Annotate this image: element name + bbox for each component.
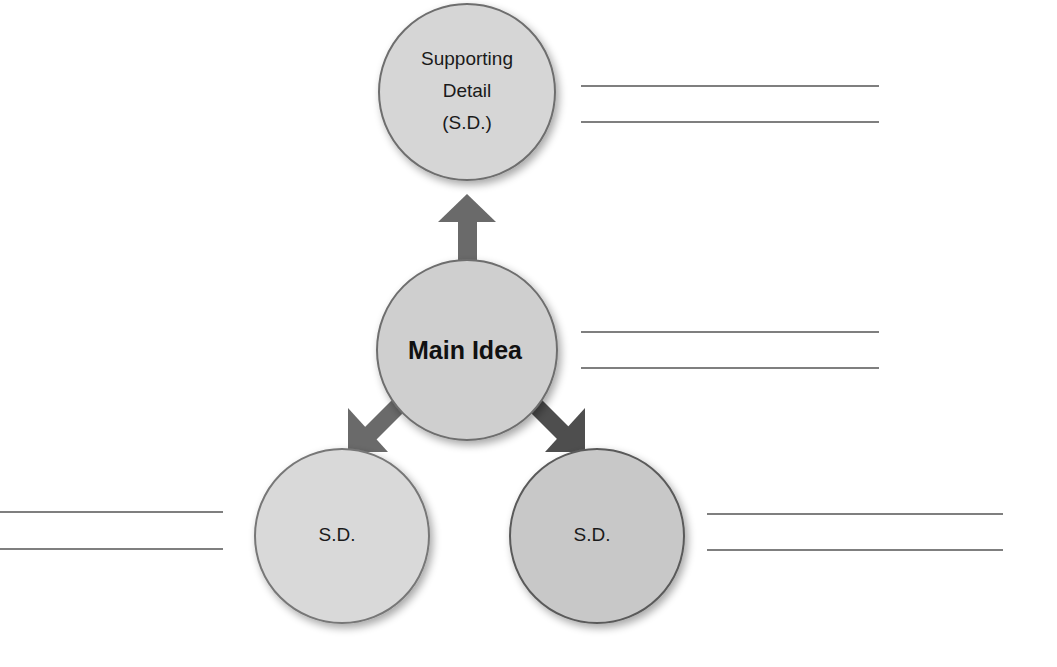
- arrow-down-right: [530, 400, 585, 452]
- arrow-down-left: [348, 400, 404, 452]
- node-label: S.D.: [574, 524, 611, 545]
- supporting-detail-node-top: Supporting Detail (S.D.): [379, 4, 555, 180]
- main-idea-label: Main Idea: [408, 336, 523, 364]
- node-label-line1: Supporting: [421, 48, 513, 69]
- node-label-line2: Detail: [443, 80, 492, 101]
- supporting-detail-node-bottom-right: S.D.: [510, 449, 684, 623]
- node-label-line3: (S.D.): [442, 112, 492, 133]
- arrow-up: [438, 194, 496, 263]
- diagram-canvas: Supporting Detail (S.D.) Main Idea S.D. …: [0, 0, 1057, 667]
- supporting-detail-node-bottom-left: S.D.: [255, 449, 429, 623]
- node-label: S.D.: [319, 524, 356, 545]
- main-idea-node: Main Idea: [377, 260, 557, 440]
